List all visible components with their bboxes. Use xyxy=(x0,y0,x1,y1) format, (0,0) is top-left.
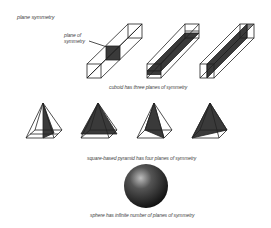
pyramid-1 xyxy=(26,103,62,138)
sphere-caption: sphere has infinite number of planes of … xyxy=(90,212,194,218)
pyramid-2 xyxy=(81,103,117,138)
sphere xyxy=(124,164,168,208)
cuboid-2 xyxy=(147,24,199,78)
callout-leader-line xyxy=(89,41,107,47)
pyramid-4 xyxy=(192,103,227,138)
cuboid-1 xyxy=(87,24,142,78)
pyramid-caption: square-based pyramid has four planes of … xyxy=(87,155,196,161)
cuboid-caption: cuboid has three planes of symmetry xyxy=(109,84,187,90)
cuboid-3 xyxy=(200,24,254,78)
symmetry-figures xyxy=(0,0,271,228)
pyramid-3 xyxy=(137,103,172,138)
